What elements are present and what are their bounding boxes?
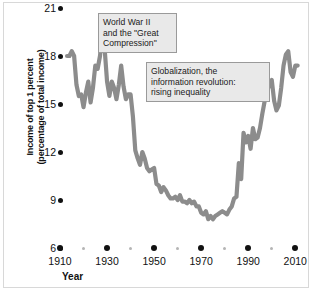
x-tick-dot-minor-1960: [176, 247, 179, 250]
x-tick-dot-minor-1920: [82, 247, 85, 250]
y-tick-label-15: 15: [30, 99, 56, 109]
x-tick-label-1990: 1990: [228, 255, 268, 267]
x-tick-label-1970: 1970: [181, 255, 221, 267]
x-tick-label-1910: 1910: [40, 255, 80, 267]
x-tick-dot-minor-1940: [129, 247, 132, 250]
y-tick-label-18: 18: [30, 51, 56, 61]
plot-area: [60, 8, 300, 248]
x-tick-dot-1990: [245, 245, 251, 251]
x-tick-dot-minor-2000: [270, 247, 273, 250]
x-tick-dot-minor-1980: [223, 247, 226, 250]
annotation-globalization-line-3: rising inequality: [151, 87, 265, 98]
x-tick-dot-1950: [151, 245, 157, 251]
annotation-globalization-line-2: information revolution:: [151, 77, 265, 88]
y-tick-label-12: 12: [30, 147, 56, 157]
x-tick-dot-1930: [104, 245, 110, 251]
annotation-globalization: Globalization, the information revolutio…: [146, 62, 270, 102]
x-tick-dot-1970: [198, 245, 204, 251]
x-tick-label-1950: 1950: [134, 255, 174, 267]
y-tick-label-21: 21: [30, 3, 56, 13]
y-tick-label-9: 9: [30, 195, 56, 205]
x-tick-label-1930: 1930: [87, 255, 127, 267]
x-tick-dot-2010: [292, 245, 298, 251]
line-chart-svg: [60, 8, 300, 248]
annotation-wwii-line-3: Compression": [103, 38, 172, 49]
x-tick-dot-1910: [57, 245, 63, 251]
annotation-wwii-line-1: World War II: [103, 17, 172, 28]
annotation-wwii-line-2: and the "Great: [103, 28, 172, 39]
y-tick-label-6: 6: [30, 243, 56, 253]
x-axis-title: Year: [62, 271, 83, 282]
annotation-globalization-line-1: Globalization, the: [151, 66, 265, 77]
annotation-world-war-ii: World War II and the "Great Compression": [98, 13, 177, 53]
chart-figure: Income of top 1 percent (percentage of t…: [0, 0, 313, 292]
x-tick-label-2010: 2010: [275, 255, 313, 267]
